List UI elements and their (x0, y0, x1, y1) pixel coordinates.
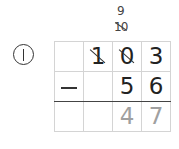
subtrahend-cell: 5 (113, 72, 142, 102)
minuend-cell (55, 42, 84, 72)
answer-row: 4 7 (55, 102, 171, 132)
minuend-row: 1 0 3 (55, 42, 171, 72)
answer-cell (55, 102, 84, 132)
subtraction-grid: 1 0 3 5 6 4 7 (54, 41, 171, 132)
minuend-cell-crossed: 1 (84, 42, 113, 72)
subtrahend-cell: 6 (142, 72, 171, 102)
borrow-crossed-digit: 10 (114, 21, 127, 33)
operator-cell (55, 72, 84, 102)
answer-cell (84, 102, 113, 132)
answer-cell: 7 (142, 102, 171, 132)
subtrahend-row: 5 6 (55, 72, 171, 102)
borrow-result-digit: 9 (117, 5, 125, 17)
minuend-cell-crossed: 0 (113, 42, 142, 72)
subtrahend-cell (84, 72, 113, 102)
minuend-cell: 3 (142, 42, 171, 72)
problem-number-badge: ① (13, 44, 34, 65)
answer-cell: 4 (113, 102, 142, 132)
minus-sign-icon (61, 87, 77, 89)
